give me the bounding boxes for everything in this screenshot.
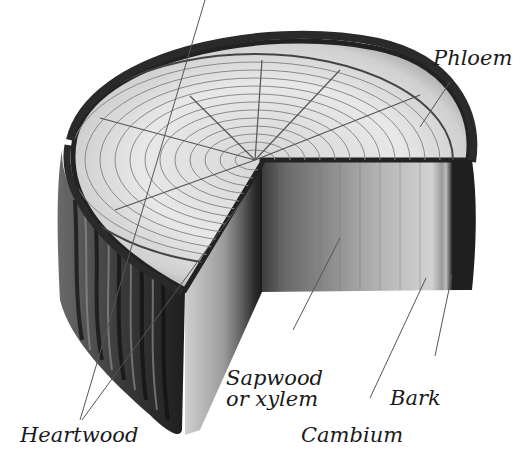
label-bark: Bark (390, 388, 441, 408)
tree-trunk-diagram: Phloem Sapwood or xylem Bark Heartwood C… (0, 0, 531, 461)
cambium-leader (370, 278, 426, 398)
bark-right-edge (452, 160, 476, 290)
label-heartwood: Heartwood (20, 425, 138, 445)
label-sapwood: Sapwood or xylem (226, 368, 323, 410)
label-sapwood-line1: Sapwood (226, 368, 323, 389)
label-phloem: Phloem (433, 48, 512, 68)
label-sapwood-line2: or xylem (226, 389, 323, 410)
cut-face-sapwood (262, 160, 462, 292)
label-cambium: Cambium (301, 425, 403, 445)
